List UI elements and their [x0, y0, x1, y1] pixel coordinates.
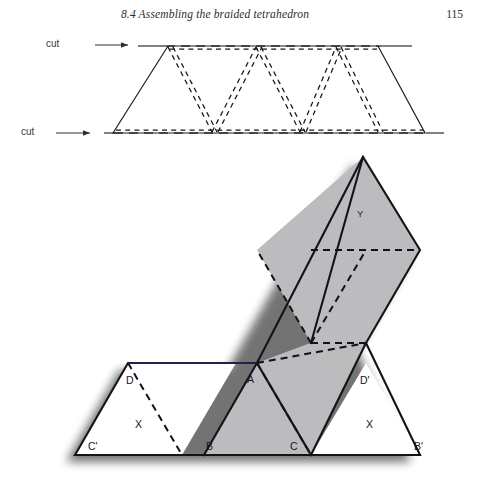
label-c-prime: C'	[88, 440, 98, 452]
strip-fold-lines	[168, 47, 383, 132]
strip-outline	[113, 46, 425, 133]
braided-strip-figure	[0, 0, 477, 160]
label-y: Y	[357, 208, 364, 219]
cut-arrow-top	[95, 42, 128, 48]
label-d: D	[126, 374, 134, 386]
cut-arrow-bottom	[56, 130, 90, 136]
label-b: B	[206, 440, 213, 452]
label-x-left: X	[135, 418, 142, 430]
page-canvas: 8.4 Assembling the braided tetrahedron 1…	[0, 0, 477, 481]
label-b-prime: B'	[414, 440, 423, 452]
label-c: C	[290, 440, 298, 452]
label-x-right: X	[366, 418, 373, 430]
label-a: A	[247, 373, 254, 385]
label-d-prime: D'	[360, 374, 370, 386]
tetrahedron-net-figure: C' D X B A C D' X B' Y	[0, 145, 477, 481]
